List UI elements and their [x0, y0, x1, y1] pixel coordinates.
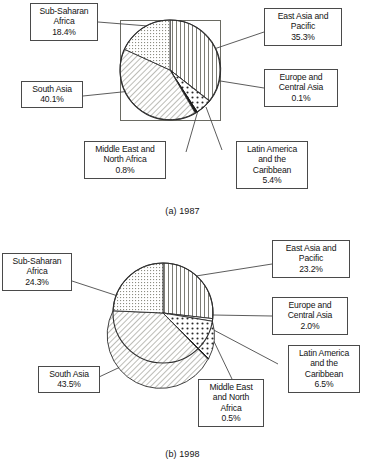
figure-caption-1998: (b) 1998	[0, 449, 365, 459]
leader-latin-america-1987	[206, 107, 222, 150]
callout-label-line3: Caribbean	[292, 369, 356, 379]
callout-value: 0.5%	[202, 413, 260, 423]
callout-label-line2: Africa	[34, 16, 94, 26]
callout-label-line2: Central Asia	[276, 310, 344, 320]
callout-value: 0.8%	[88, 165, 162, 175]
callout-europe-central-asia-1998: Europe and Central Asia 2.0%	[272, 297, 348, 335]
callout-label-line1: Europe and	[268, 72, 334, 82]
callout-label-line1: South Asia	[42, 369, 96, 379]
callout-value: 35.3%	[268, 32, 338, 42]
callout-label-line1: Middle East	[202, 382, 260, 392]
callout-label-line1: Latin America	[292, 348, 356, 358]
leader-east-asia-1998	[196, 264, 272, 276]
callout-label-line2: Pacific	[268, 21, 338, 31]
callout-east-asia-pacific-1998: East Asia and Pacific 23.2%	[272, 240, 350, 278]
callout-value: 0.1%	[268, 93, 334, 103]
callout-value: 6.5%	[292, 379, 356, 389]
callout-middle-east-north-africa-1998: Middle East and North Africa 0.5%	[198, 379, 264, 427]
figure-caption-1987: (a) 1987	[0, 206, 365, 216]
callout-label-line1: Sub-Saharan	[34, 6, 94, 16]
callout-label-line2: Central Asia	[268, 82, 334, 92]
callout-label-line1: Middle East and	[88, 144, 162, 154]
callout-label-line3: Africa	[202, 403, 260, 413]
leader-latin-america-1998	[210, 328, 278, 364]
slice-east-asia-pacific-1998	[163, 263, 213, 319]
callout-label-line1: Latin America	[240, 144, 304, 154]
callout-label-line2: North Africa	[88, 154, 162, 164]
pie-chart-1987: Sub-Saharan Africa 18.4% East Asia and P…	[0, 0, 365, 232]
callout-value: 5.4%	[240, 175, 304, 185]
callout-value: 43.5%	[42, 379, 96, 389]
callout-label-line1: East Asia and	[268, 11, 338, 21]
callout-south-asia-1987: South Asia 40.1%	[21, 81, 83, 108]
callout-middle-east-north-africa-1987: Middle East and North Africa 0.8%	[84, 141, 166, 179]
callout-east-asia-pacific-1987: East Asia and Pacific 35.3%	[264, 8, 342, 46]
callout-south-asia-1998: South Asia 43.5%	[38, 366, 100, 393]
callout-value: 40.1%	[25, 94, 79, 104]
callout-value: 2.0%	[276, 321, 344, 331]
callout-sub-saharan-africa-1998: Sub-Saharan Africa 24.3%	[2, 253, 72, 291]
callout-label-line2: and the	[240, 154, 304, 164]
slice-sub-saharan-africa-1998	[113, 263, 163, 313]
callout-value: 23.2%	[276, 264, 346, 274]
callout-label-line1: Sub-Saharan	[6, 256, 68, 266]
callout-label-line2: and North	[202, 392, 260, 402]
leader-east-asia-1987	[214, 32, 264, 49]
callout-value: 18.4%	[34, 27, 94, 37]
callout-sub-saharan-africa-1987: Sub-Saharan Africa 18.4%	[30, 3, 98, 41]
callout-value: 24.3%	[6, 277, 68, 287]
leader-europe-1998	[213, 315, 272, 316]
callout-label-line2: and the	[292, 358, 356, 368]
callout-europe-central-asia-1987: Europe and Central Asia 0.1%	[264, 69, 338, 107]
callout-label-line2: Africa	[6, 266, 68, 276]
callout-label-line1: East Asia and	[276, 243, 346, 253]
callout-label-line1: Europe and	[276, 300, 344, 310]
pie-chart-1998: Sub-Saharan Africa 24.3% East Asia and P…	[0, 231, 365, 463]
callout-latin-america-caribbean-1987: Latin America and the Caribbean 5.4%	[236, 141, 308, 189]
callout-label-line2: Pacific	[276, 253, 346, 263]
leader-sub-saharan-1987	[98, 22, 148, 26]
callout-latin-america-caribbean-1998: Latin America and the Caribbean 6.5%	[288, 345, 360, 393]
callout-label-line3: Caribbean	[240, 165, 304, 175]
callout-label-line1: South Asia	[25, 84, 79, 94]
